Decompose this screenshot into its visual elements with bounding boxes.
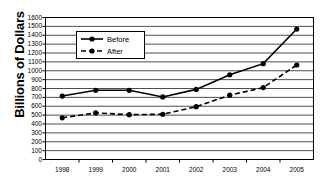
data-point-after <box>294 62 299 67</box>
data-point-before <box>261 61 266 66</box>
data-point-before <box>227 72 232 77</box>
legend-label-before: Before <box>107 35 129 44</box>
data-point-after <box>127 112 132 117</box>
data-point-after <box>160 112 165 117</box>
legend-label-after: After <box>107 47 123 56</box>
chart-legend: BeforeAfter <box>77 32 145 59</box>
data-point-before <box>60 93 65 98</box>
data-point-before <box>127 88 132 93</box>
data-point-after <box>194 104 199 109</box>
data-point-before <box>194 87 199 92</box>
data-point-before <box>93 88 98 93</box>
plot-area: BeforeAfter <box>0 0 327 183</box>
line-chart: Billions of Dollars 01002003004005006007… <box>0 0 327 183</box>
legend-marker-before <box>89 36 94 41</box>
data-point-after <box>60 115 65 120</box>
legend-marker-after <box>89 48 94 53</box>
data-point-after <box>93 110 98 115</box>
data-point-before <box>294 26 299 31</box>
data-point-after <box>227 93 232 98</box>
data-point-before <box>160 94 165 99</box>
data-point-after <box>261 85 266 90</box>
